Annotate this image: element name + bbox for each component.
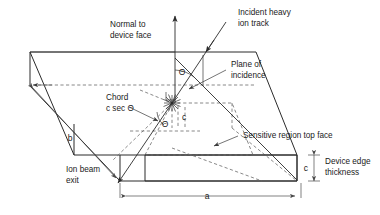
chord-label-line1: Chord (106, 93, 129, 102)
incident-ion-track-arrowhead (206, 40, 214, 52)
normal-to-device-face-label-line2: device face (110, 31, 152, 40)
sensitive-volume-top-face-dashed (145, 103, 253, 155)
plane-of-incidence-leader (189, 70, 226, 89)
dimension-b-label: b (68, 133, 73, 143)
plane-of-incidence-label-line2: incidence (231, 71, 266, 80)
sensitive-region-top-face-label: Sensitive region top face (243, 131, 333, 140)
sensitive-region-face-diagonal (172, 148, 262, 181)
sensitive-region-top-face-leader (214, 136, 238, 146)
dimension-c-edge-label: c (304, 163, 309, 173)
incident-ion-track-label-line1: Incident heavy (238, 8, 292, 17)
device-edge-thickness-label-line2: thickness (325, 168, 359, 177)
plane-of-incidence-label-line1: Plane of (231, 60, 262, 69)
dimension-c-edge: c (304, 155, 320, 181)
theta-lower-label: Θ (162, 119, 169, 129)
leader-lines (30, 52, 238, 146)
dimension-a: a (120, 183, 301, 201)
normal-to-device-face-label-line1: Normal to (110, 20, 146, 29)
dimension-c-inner-label: c (182, 112, 187, 122)
figure-canvas: a b c c Θ Θ (0, 0, 380, 215)
ion-track-diagram: a b c c Θ Θ (0, 0, 380, 215)
text-labels: Normal to device face Incident heavy ion… (66, 8, 371, 185)
sensitive-region-front-box (145, 148, 297, 181)
dimension-a-label: a (205, 191, 210, 201)
ion-beam-exit-label-line1: Ion beam (66, 165, 100, 174)
incident-ion-track-label-line2: ion track (238, 19, 270, 28)
ion-beam-exit-label-line2: exit (66, 176, 79, 185)
sensitive-region-front-face (145, 155, 297, 181)
chord-label-line2: c sec Θ (106, 104, 134, 113)
dimension-c-inner: c (178, 106, 187, 128)
theta-upper-label: Θ (179, 67, 186, 77)
device-edge-thickness-label-line1: Device edge (325, 157, 371, 166)
